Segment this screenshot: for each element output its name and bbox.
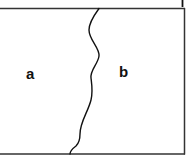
region-label-a: a bbox=[26, 66, 34, 81]
region-label-b: b bbox=[119, 64, 128, 79]
boundary-curve bbox=[70, 9, 99, 155]
diagram-figure: a b bbox=[0, 0, 188, 160]
